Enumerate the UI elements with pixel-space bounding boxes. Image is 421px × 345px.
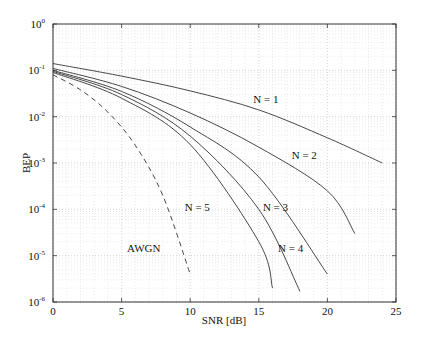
y-tick-label: 10-5 [28,249,45,262]
x-axis-label: SNR [dB] [202,314,246,326]
y-tick-label: 10-6 [28,295,45,308]
y-tick-label: 10-2 [28,110,45,123]
series-label: N = 4 [278,242,304,254]
series-label: AWGN [127,242,160,254]
y-tick-label: 100 [31,17,46,30]
x-tick-label: 10 [185,305,197,317]
x-tick-label: 25 [391,305,403,317]
x-tick-label: 0 [50,305,56,317]
series-label: N = 2 [292,149,317,161]
x-tick-label: 5 [119,305,125,317]
grid [53,24,396,302]
y-tick-label: 10-1 [28,63,45,76]
axis-ticks: 051015202510010-110-210-310-410-510-6 [28,17,402,317]
bep-vs-snr-chart: 051015202510010-110-210-310-410-510-6 N … [0,0,421,345]
series-label: N = 5 [185,201,211,213]
series-label: N = 3 [263,201,289,213]
y-axis-label: BEP [20,153,32,173]
x-tick-label: 20 [322,305,334,317]
x-tick-label: 15 [253,305,265,317]
y-tick-label: 10-4 [28,202,45,215]
series-label: N = 1 [253,93,278,105]
